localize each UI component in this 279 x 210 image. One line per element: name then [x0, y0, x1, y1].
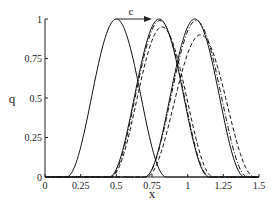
series-line [45, 21, 259, 177]
series-line [45, 35, 259, 177]
series-line [45, 19, 259, 177]
y-tick-label: 0 [37, 172, 42, 183]
y-tick-label: 0.25 [25, 132, 43, 143]
y-tick-label: 1 [37, 14, 42, 25]
y-ticks: 00.250.50.751 [25, 14, 49, 183]
x-tick-label: 0.25 [72, 180, 90, 191]
y-axis-label: q [9, 91, 16, 106]
arrow-label: c [129, 5, 134, 17]
series-line [45, 19, 259, 177]
x-tick-label: 1.25 [215, 180, 233, 191]
x-tick-label: 1.5 [253, 180, 266, 191]
series-line [45, 27, 259, 177]
x-tick-label: 1 [185, 180, 190, 191]
series-line [45, 21, 259, 177]
x-axis-label: x [149, 186, 156, 201]
arrow-head-icon [144, 16, 152, 22]
y-tick-label: 0.5 [30, 93, 43, 104]
axes [45, 19, 259, 177]
chart: 00.250.50.7511.251.5 00.250.50.751 x q c [0, 0, 279, 210]
plot-curves [45, 19, 259, 177]
x-tick-label: 0.5 [110, 180, 123, 191]
x-tick-label: 0 [43, 180, 48, 191]
velocity-arrow: c [117, 5, 152, 22]
series-line [45, 19, 259, 177]
y-tick-label: 0.75 [25, 53, 43, 64]
